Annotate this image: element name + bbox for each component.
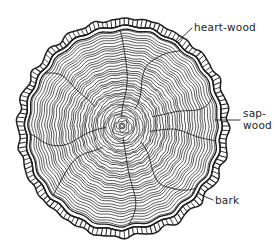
label-text-bark: bark	[215, 194, 240, 206]
label-text-heart-wood: heart-wood	[194, 21, 256, 33]
label-line: heart-wood	[194, 21, 256, 33]
tree-cross-section-figure: heart-woodsap-woodbark	[0, 0, 276, 249]
sapwood-outer-boundary	[28, 29, 219, 227]
wood-layer	[28, 29, 219, 227]
bark-hatch-stroke	[110, 229, 111, 236]
label-line: bark	[215, 194, 240, 206]
tree-cross-section-drawing: heart-woodsap-woodbark	[0, 0, 276, 249]
label-line: sap-	[243, 107, 266, 119]
bark-hatch-stroke	[22, 109, 27, 110]
bark-hatch-stroke	[115, 20, 116, 27]
label-line: wood	[243, 119, 272, 131]
